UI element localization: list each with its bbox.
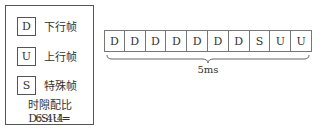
legend-symbol: S <box>17 76 36 95</box>
frame-cell: D <box>125 30 146 52</box>
frame-cell: D <box>146 30 167 52</box>
legend-symbol: D <box>17 17 36 36</box>
frame-cell: D <box>229 30 250 52</box>
legend-label: 特殊帧 <box>44 77 77 93</box>
frame-cell: D <box>104 30 125 52</box>
legend-label: 上行帧 <box>44 48 77 64</box>
period-label: 5ms <box>104 64 312 75</box>
legend-label: 下行帧 <box>44 18 77 34</box>
frame-sequence: D D D D D D D S U U <box>104 30 312 52</box>
frame-cell: D <box>166 30 187 52</box>
frame-cell: U <box>270 30 291 52</box>
legend-item-uplink: U 上行帧 <box>17 46 77 66</box>
frame-cell: D <box>187 30 208 52</box>
legend-item-downlink: D 下行帧 <box>17 16 77 36</box>
frame-cell: S <box>250 30 271 52</box>
frame-cell: D <box>208 30 229 52</box>
slot-ratio-line2: 6:4:4 <box>6 112 93 125</box>
legend-symbol: U <box>17 47 36 66</box>
legend-item-special: S 特殊帧 <box>17 75 77 95</box>
frame-cell: U <box>291 30 312 52</box>
legend-box: D 下行帧 U 上行帧 S 特殊帧 时隙配比 D:S:U= 6:4:4 <box>5 5 94 125</box>
brace-icon <box>106 55 310 63</box>
